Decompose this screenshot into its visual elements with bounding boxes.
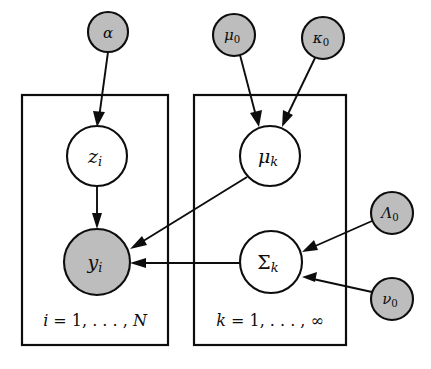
node-alpha-label: α xyxy=(103,24,113,42)
edge-lambda0-to-sigmak xyxy=(302,221,372,252)
node-y-i[interactable]: yi xyxy=(64,229,130,295)
node-lambda0[interactable]: Λ0 xyxy=(371,192,413,234)
arrowhead-mu0-to-muk xyxy=(250,110,262,127)
node-nu0[interactable]: ν0 xyxy=(371,278,413,320)
nodes-layer: α μ0 κ0 Λ0 xyxy=(64,12,413,320)
edge-z-to-y xyxy=(92,186,102,229)
plate-data-label: i = 1, . . . , N xyxy=(43,311,148,330)
arrowhead-muk-to-y xyxy=(130,236,147,249)
edges-layer xyxy=(92,52,372,292)
node-mu0[interactable]: μ0 xyxy=(213,14,255,56)
plate-components-label: k = 1, . . . , ∞ xyxy=(216,311,324,330)
edge-kappa0-to-muk xyxy=(282,58,315,127)
node-z-i[interactable]: zi xyxy=(67,126,127,186)
arrowhead-sigmak-to-y xyxy=(130,258,146,268)
node-sigma-k[interactable]: Σk xyxy=(240,231,302,293)
node-kappa0[interactable]: κ0 xyxy=(302,17,344,59)
node-alpha[interactable]: α xyxy=(88,12,128,52)
edge-muk-to-y xyxy=(130,177,247,249)
arrowhead-z-to-y xyxy=(92,213,102,229)
edge-nu0-to-sigmak xyxy=(302,272,372,292)
edge-sigmak-to-y xyxy=(130,258,240,268)
edge-alpha-to-z xyxy=(93,52,108,127)
plates-layer xyxy=(22,95,346,345)
plate-diagram: α μ0 κ0 Λ0 xyxy=(0,0,431,369)
arrowhead-nu0-to-sigmak xyxy=(302,272,317,282)
arrowhead-lambda0-to-sigmak xyxy=(302,240,318,252)
plate-labels-layer: i = 1, . . . , N k = 1, . . . , ∞ xyxy=(43,311,324,330)
edge-mu0-to-muk xyxy=(240,55,262,127)
arrowhead-kappa0-to-muk xyxy=(282,110,293,127)
node-mu-k[interactable]: μk xyxy=(240,126,300,186)
arrowhead-alpha-to-z xyxy=(93,111,105,127)
graphical-model-canvas: α μ0 κ0 Λ0 xyxy=(0,0,431,369)
